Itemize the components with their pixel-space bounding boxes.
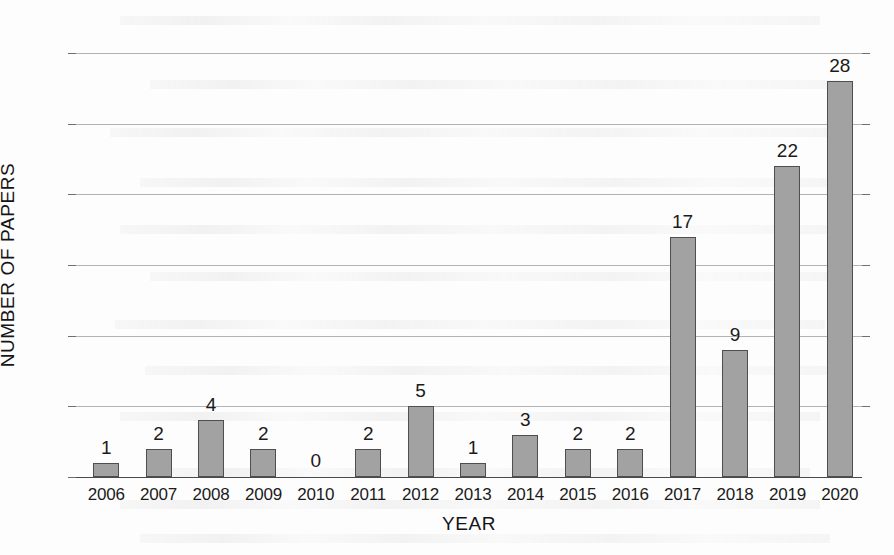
- bar-2015[interactable]: 2: [565, 449, 591, 477]
- bar-2006[interactable]: 1: [93, 463, 119, 477]
- bar-2011[interactable]: 2: [355, 449, 381, 477]
- bar-value-label-2010: 0: [311, 450, 322, 472]
- bar-value-label-2018: 9: [730, 324, 741, 346]
- bar-2020[interactable]: 28: [827, 81, 853, 477]
- y-tick-mark-right-10: [862, 336, 870, 337]
- x-tick-label-2010: 2010: [297, 485, 334, 505]
- y-tick-mark-5: [68, 406, 76, 407]
- x-tick-label-2007: 2007: [140, 485, 177, 505]
- x-tick-label-2020: 2020: [821, 485, 858, 505]
- y-tick-mark-0: [68, 477, 76, 478]
- y-tick-mark-right-30: [862, 53, 870, 54]
- bar-value-label-2013: 1: [468, 437, 479, 459]
- x-tick-label-2019: 2019: [769, 485, 806, 505]
- chart-figure: NUMBER OF PAPERS YEAR 051015202530120062…: [0, 0, 894, 555]
- x-tick-label-2012: 2012: [402, 485, 439, 505]
- bar-2009[interactable]: 2: [250, 449, 276, 477]
- y-axis-title: NUMBER OF PAPERS: [0, 163, 19, 368]
- x-tick-label-2011: 2011: [350, 485, 386, 505]
- x-tick-label-2009: 2009: [245, 485, 282, 505]
- plot-area: 0510152025301200622007420082200902010220…: [76, 53, 862, 477]
- bar-2007[interactable]: 2: [146, 449, 172, 477]
- y-tick-mark-10: [68, 336, 76, 337]
- y-tick-mark-25: [68, 124, 76, 125]
- gridline-30: [76, 53, 862, 54]
- gridline-10: [76, 336, 862, 337]
- bar-2008[interactable]: 4: [198, 420, 224, 477]
- x-tick-label-2013: 2013: [454, 485, 491, 505]
- bar-value-label-2008: 4: [206, 394, 217, 416]
- bar-value-label-2016: 2: [625, 423, 636, 445]
- bar-2016[interactable]: 2: [617, 449, 643, 477]
- y-tick-mark-right-5: [862, 406, 870, 407]
- y-tick-mark-15: [68, 265, 76, 266]
- bar-2013[interactable]: 1: [460, 463, 486, 477]
- y-tick-mark-20: [68, 194, 76, 195]
- gridline-20: [76, 194, 862, 195]
- y-tick-mark-right-20: [862, 194, 870, 195]
- x-tick-label-2017: 2017: [664, 485, 701, 505]
- x-tick-label-2014: 2014: [507, 485, 544, 505]
- bar-2012[interactable]: 5: [408, 406, 434, 477]
- bar-value-label-2014: 3: [520, 409, 531, 431]
- bar-2018[interactable]: 9: [722, 350, 748, 477]
- y-tick-mark-right-15: [862, 265, 870, 266]
- x-tick-label-2018: 2018: [716, 485, 753, 505]
- x-tick-label-2015: 2015: [559, 485, 596, 505]
- bar-2014[interactable]: 3: [512, 435, 538, 477]
- bar-2019[interactable]: 22: [774, 166, 800, 477]
- bar-value-label-2006: 1: [101, 437, 112, 459]
- gridline-15: [76, 265, 862, 266]
- bar-value-label-2009: 2: [258, 423, 269, 445]
- x-tick-label-2006: 2006: [88, 485, 125, 505]
- x-tick-label-2008: 2008: [192, 485, 229, 505]
- bar-value-label-2015: 2: [573, 423, 584, 445]
- x-axis-title: YEAR: [442, 513, 496, 535]
- y-tick-mark-30: [68, 53, 76, 54]
- gridline-0: [76, 477, 862, 478]
- x-tick-label-2016: 2016: [612, 485, 649, 505]
- y-tick-mark-right-25: [862, 124, 870, 125]
- bar-value-label-2007: 2: [153, 423, 164, 445]
- bar-value-label-2011: 2: [363, 423, 374, 445]
- bar-value-label-2019: 22: [777, 140, 798, 162]
- gridline-25: [76, 124, 862, 125]
- bar-2017[interactable]: 17: [670, 237, 696, 477]
- bar-value-label-2020: 28: [829, 55, 850, 77]
- bar-value-label-2012: 5: [415, 380, 426, 402]
- bar-value-label-2017: 17: [672, 211, 693, 233]
